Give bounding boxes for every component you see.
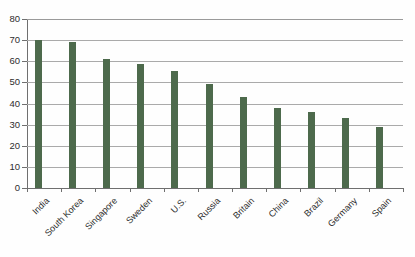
y-axis-tick-label: 30 xyxy=(0,120,20,130)
x-axis-tick xyxy=(130,188,131,192)
x-axis-tick xyxy=(27,188,28,192)
y-axis-tick-label: 40 xyxy=(0,99,20,109)
plot-area xyxy=(27,19,403,188)
y-axis-tick-label: 20 xyxy=(0,141,20,151)
bar-chart: 01020304050607080 IndiaSouth KoreaSingap… xyxy=(0,0,415,257)
bar xyxy=(240,97,247,188)
bar xyxy=(69,42,76,188)
y-axis-tick-label: 80 xyxy=(0,14,20,24)
x-axis-tick xyxy=(266,188,267,192)
bar xyxy=(171,71,178,188)
y-axis-tick-label: 0 xyxy=(0,183,20,193)
x-axis-tick xyxy=(164,188,165,192)
x-axis-tick xyxy=(369,188,370,192)
bar xyxy=(376,127,383,188)
y-axis-tick-label: 70 xyxy=(0,35,20,45)
y-axis-tick-label: 60 xyxy=(0,56,20,66)
x-axis-tick xyxy=(232,188,233,192)
bar xyxy=(342,118,349,188)
bar xyxy=(137,64,144,188)
y-axis-tick-label: 50 xyxy=(0,77,20,87)
gridline xyxy=(27,188,403,189)
x-axis-tick xyxy=(61,188,62,192)
bar xyxy=(35,40,42,188)
x-axis-tick xyxy=(300,188,301,192)
x-axis-tick xyxy=(403,188,404,192)
bar xyxy=(274,108,281,188)
x-axis-tick xyxy=(95,188,96,192)
y-axis-tick-label: 10 xyxy=(0,162,20,172)
bar xyxy=(308,112,315,188)
bar xyxy=(103,59,110,188)
x-axis-tick xyxy=(335,188,336,192)
x-axis-tick xyxy=(198,188,199,192)
bar xyxy=(206,84,213,188)
